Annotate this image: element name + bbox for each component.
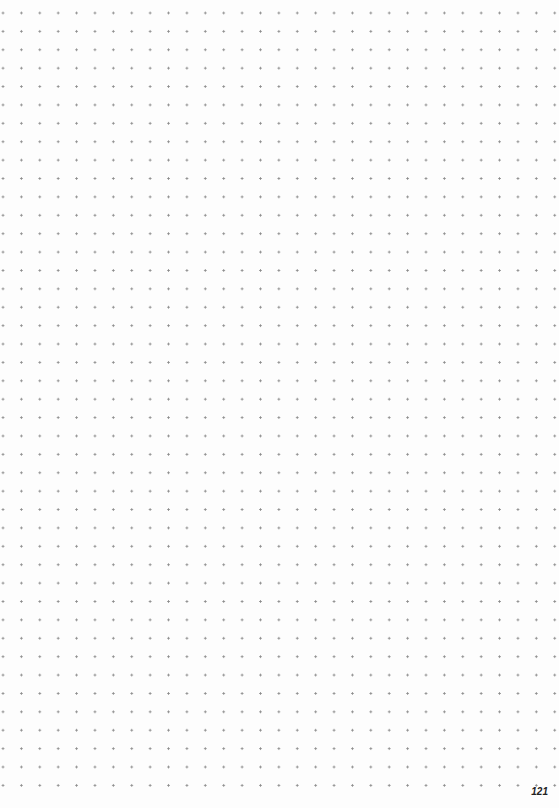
- dot-grid: [0, 0, 559, 808]
- page-number: 121: [531, 786, 548, 797]
- bottom-margin: [0, 792, 559, 808]
